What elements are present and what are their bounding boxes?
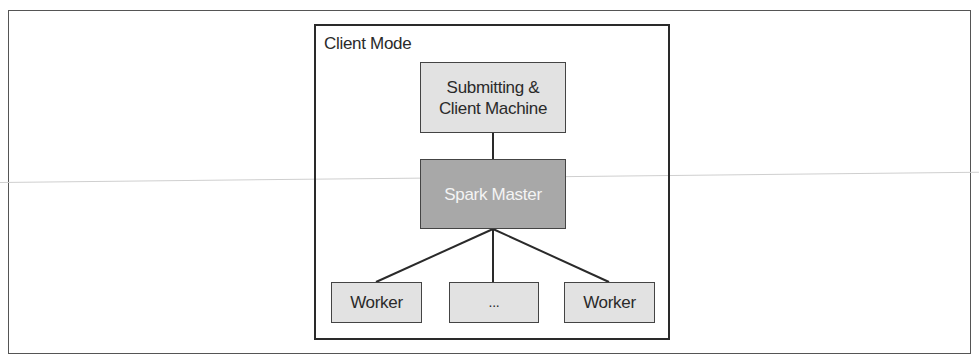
ellipsis-label: ... — [489, 292, 500, 313]
worker-label: Worker — [583, 292, 636, 313]
worker-label: Worker — [350, 292, 403, 313]
client-node-line2: Client Machine — [439, 98, 547, 119]
spark-master-label: Spark Master — [444, 184, 542, 205]
worker-node-ellipsis: ... — [449, 282, 539, 323]
client-node-line1: Submitting & — [447, 77, 540, 98]
spark-master-node: Spark Master — [420, 159, 566, 229]
worker-node-1: Worker — [331, 282, 422, 323]
client-machine-node: Submitting & Client Machine — [420, 62, 566, 133]
worker-node-2: Worker — [564, 282, 655, 323]
